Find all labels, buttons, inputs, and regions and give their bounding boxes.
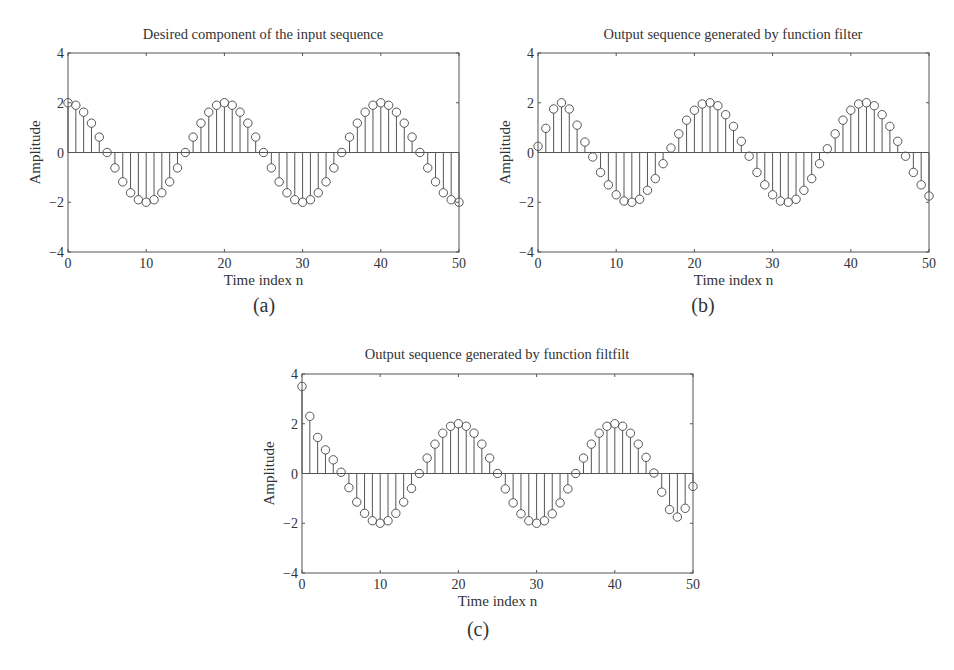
stem-marker <box>353 498 361 506</box>
stem-marker <box>532 519 540 527</box>
stem-marker <box>587 440 595 448</box>
stem-marker <box>626 429 634 437</box>
stem-marker <box>345 483 353 491</box>
stem-marker <box>665 505 673 513</box>
stem-marker <box>673 513 681 521</box>
x-tick-label: 50 <box>686 577 700 592</box>
stem-marker <box>423 454 431 462</box>
stem-marker <box>642 453 650 461</box>
stem-marker <box>399 498 407 506</box>
stem-marker <box>462 422 470 430</box>
stem-marker <box>337 468 345 476</box>
y-tick-label: −4 <box>283 566 298 581</box>
stem-marker <box>376 519 384 527</box>
stem-marker <box>407 484 415 492</box>
y-tick-label: 2 <box>291 417 298 432</box>
x-tick-label: 40 <box>608 577 622 592</box>
stem-marker <box>556 499 564 507</box>
stem-marker <box>360 509 368 517</box>
stem-marker <box>329 456 337 464</box>
stem-marker <box>548 510 556 518</box>
stem-marker <box>368 517 376 525</box>
stem-marker <box>501 485 509 493</box>
x-tick-label: 30 <box>530 577 544 592</box>
stem-marker <box>431 440 439 448</box>
stem-marker <box>446 422 454 430</box>
stem-marker <box>611 420 619 428</box>
y-tick-label: −2 <box>283 516 298 531</box>
x-tick-label: 10 <box>373 577 387 592</box>
stem-marker <box>470 429 478 437</box>
stem-marker <box>564 485 572 493</box>
stem-marker <box>658 488 666 496</box>
stem-marker <box>313 433 321 441</box>
stem-marker <box>478 440 486 448</box>
y-tick-label: 4 <box>291 367 298 382</box>
stem-marker <box>579 454 587 462</box>
panel-c-caption: (c) <box>467 618 489 641</box>
stem-marker <box>306 412 314 420</box>
stem-marker <box>485 454 493 462</box>
stem-marker <box>517 510 525 518</box>
y-tick-label: 0 <box>291 467 298 482</box>
stem-marker <box>540 517 548 525</box>
stem-marker <box>384 517 392 525</box>
stem-marker <box>681 504 689 512</box>
y-axis-label: Amplitude <box>261 441 277 506</box>
stem-marker <box>509 499 517 507</box>
stem-marker <box>439 429 447 437</box>
stem-marker <box>595 429 603 437</box>
stem-marker <box>454 420 462 428</box>
stem-marker <box>525 517 533 525</box>
stem-marker <box>618 422 626 430</box>
x-tick-label: 0 <box>299 577 306 592</box>
stem-plot-c: 01020304050−4−2024Time index nAmplitude <box>0 0 954 670</box>
stem-marker <box>603 422 611 430</box>
x-axis-label: Time index n <box>458 593 538 609</box>
x-tick-label: 20 <box>451 577 465 592</box>
stem-marker <box>392 509 400 517</box>
stem-marker <box>321 446 329 454</box>
stem-marker <box>634 440 642 448</box>
